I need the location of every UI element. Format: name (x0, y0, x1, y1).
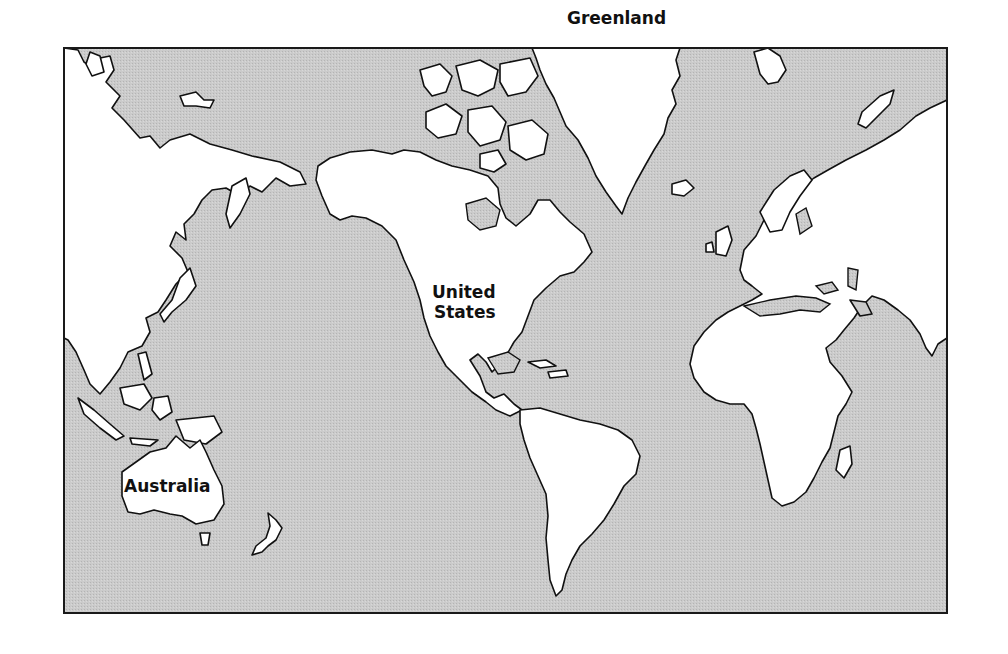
label-australia: Australia (124, 476, 211, 496)
label-united-states: United States (432, 282, 496, 322)
label-greenland: Greenland (567, 8, 666, 28)
label-united-states-line1: United (432, 282, 496, 302)
world-map (0, 0, 1008, 654)
land-tasmania (200, 533, 210, 545)
label-united-states-line2: States (434, 302, 496, 322)
sea-caspian (848, 268, 858, 290)
